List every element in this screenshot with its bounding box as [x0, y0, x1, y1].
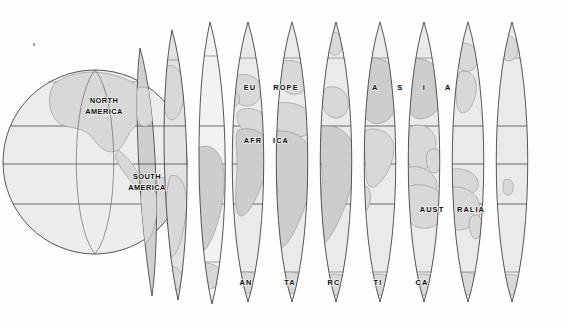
- gore-5: [269, 22, 315, 302]
- gore-7: [357, 22, 403, 302]
- gore-6: [313, 22, 359, 302]
- label-antarctica-part2: TA: [284, 278, 296, 287]
- label-europe-part1: EU: [244, 83, 256, 92]
- label-antarctica-part3: RC: [328, 278, 341, 287]
- artifact-speck: [33, 43, 35, 46]
- globe-gores-figure: NORTH AMERICA SOUTH AMERICA EU ROPE AFR …: [0, 0, 569, 328]
- label-asia-a2: A: [445, 83, 451, 92]
- label-antarctica-part1: AN: [240, 278, 253, 287]
- label-south-america-line2: AMERICA: [128, 183, 166, 192]
- label-antarctica-part4: TI: [374, 278, 383, 287]
- gore-projection-canvas: NORTH AMERICA SOUTH AMERICA EU ROPE AFR …: [0, 0, 569, 328]
- gore-10: [489, 22, 535, 302]
- label-south-america-line1: SOUTH: [133, 172, 161, 181]
- gore-9: [444, 22, 491, 302]
- gore-8: [401, 22, 447, 302]
- label-australia-part2: RALIA: [457, 205, 485, 214]
- gore-4: [225, 22, 271, 302]
- label-africa-part1: AFR: [244, 136, 263, 145]
- label-north-america-line1: NORTH: [90, 96, 119, 105]
- label-europe-part2: ROPE: [273, 83, 298, 92]
- gore-peeled-3: [190, 22, 234, 304]
- label-asia-a1: A: [372, 83, 378, 92]
- label-asia-i: I: [423, 83, 426, 92]
- label-antarctica-part5: CA: [416, 278, 429, 287]
- label-north-america-line2: AMERICA: [85, 107, 123, 116]
- label-asia-s: S: [397, 83, 402, 92]
- label-africa-part2: ICA: [273, 136, 289, 145]
- label-australia-part1: AUST: [420, 205, 445, 214]
